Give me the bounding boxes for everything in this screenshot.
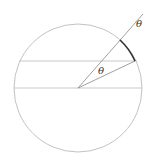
- theta-outer-label: θ: [136, 18, 142, 29]
- highlighted-arc: [120, 40, 135, 61]
- geometry-diagram: θ θ: [0, 0, 153, 163]
- theta-inner-label: θ: [98, 65, 104, 76]
- radius-ray: [78, 61, 135, 88]
